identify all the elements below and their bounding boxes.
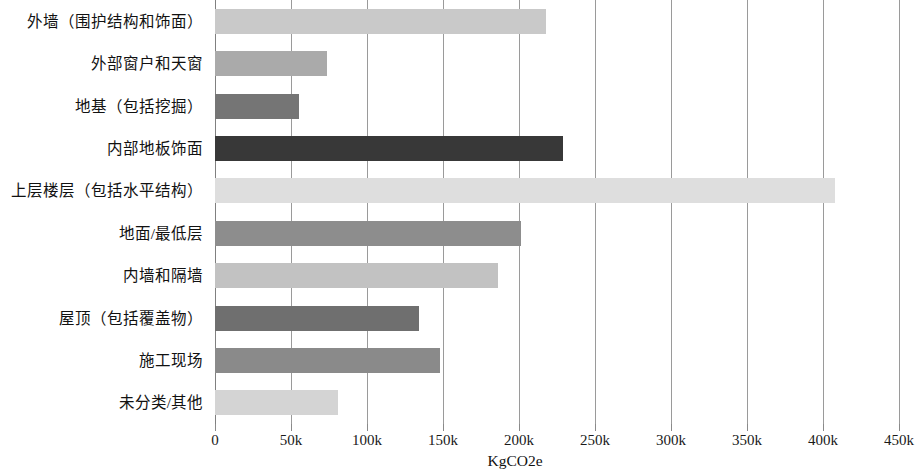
- bar-row: [215, 306, 899, 331]
- category-label: 施工现场: [139, 348, 203, 373]
- bar[interactable]: [215, 9, 546, 34]
- category-label: 内墙和隔墙: [123, 263, 203, 288]
- bar[interactable]: [215, 178, 835, 203]
- category-label: 地基（包括挖掘）: [75, 94, 203, 119]
- x-axis-tick: [595, 424, 596, 431]
- bar[interactable]: [215, 221, 521, 246]
- bar-row: [215, 136, 899, 161]
- x-axis-tick: [899, 424, 900, 431]
- category-label: 外墙（围护结构和饰面）: [27, 9, 203, 34]
- bar[interactable]: [215, 390, 338, 415]
- category-label: 内部地板饰面: [107, 136, 203, 161]
- x-axis-tick-label: 300k: [656, 431, 686, 449]
- x-axis-tick-label: 200k: [504, 431, 534, 449]
- x-axis-tick: [747, 424, 748, 431]
- bar[interactable]: [215, 51, 327, 76]
- x-axis-tick-label: 400k: [808, 431, 838, 449]
- x-axis-tick-label: 250k: [580, 431, 610, 449]
- bar[interactable]: [215, 348, 440, 373]
- bar-row: [215, 178, 899, 203]
- bar-row: [215, 263, 899, 288]
- bar-row: [215, 221, 899, 246]
- x-axis-tick: [367, 424, 368, 431]
- category-label: 上层楼层（包括水平结构）: [11, 178, 203, 203]
- bar[interactable]: [215, 136, 563, 161]
- x-axis-tick-label: 0: [211, 431, 219, 449]
- x-axis-tick: [519, 424, 520, 431]
- bar[interactable]: [215, 263, 498, 288]
- bar-chart: 外墙（围护结构和饰面）外部窗户和天窗地基（包括挖掘）内部地板饰面上层楼层（包括水…: [0, 0, 918, 474]
- gridline: [899, 0, 900, 424]
- bar-row: [215, 9, 899, 34]
- bar[interactable]: [215, 306, 419, 331]
- bar-row: [215, 51, 899, 76]
- category-label: 外部窗户和天窗: [91, 51, 203, 76]
- x-axis-title: KgCO2e: [487, 452, 542, 470]
- x-axis-tick: [823, 424, 824, 431]
- x-axis-tick: [443, 424, 444, 431]
- bar-row: [215, 94, 899, 119]
- x-axis-tick: [671, 424, 672, 431]
- bar-row: [215, 390, 899, 415]
- plot-area: 050k100k150k200k250k300k350k400k450k: [215, 0, 899, 424]
- category-axis-labels: 外墙（围护结构和饰面）外部窗户和天窗地基（包括挖掘）内部地板饰面上层楼层（包括水…: [0, 0, 209, 424]
- x-axis-tick-label: 150k: [428, 431, 458, 449]
- category-label: 屋顶（包括覆盖物）: [59, 306, 203, 331]
- x-axis-tick-label: 450k: [884, 431, 914, 449]
- x-axis-tick-label: 100k: [352, 431, 382, 449]
- x-axis-tick-label: 50k: [280, 431, 303, 449]
- category-label: 未分类/其他: [119, 390, 203, 415]
- x-axis-tick-label: 350k: [732, 431, 762, 449]
- bar-row: [215, 348, 899, 373]
- bar[interactable]: [215, 94, 299, 119]
- x-axis-tick: [291, 424, 292, 431]
- x-axis-tick: [215, 424, 216, 431]
- category-label: 地面/最低层: [119, 221, 203, 246]
